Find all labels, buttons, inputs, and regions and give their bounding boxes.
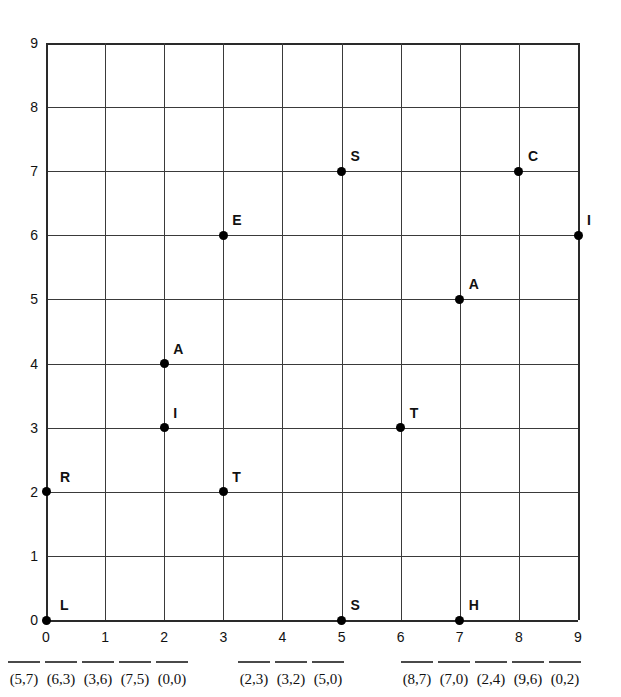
gridline-vertical xyxy=(401,43,402,620)
x-axis-tick-8: 8 xyxy=(506,630,532,644)
gridline-vertical xyxy=(164,43,165,620)
y-axis-tick-8: 8 xyxy=(12,100,38,114)
answer-blank-line[interactable] xyxy=(275,661,307,663)
answer-blank[interactable]: (2,3) xyxy=(238,661,270,687)
point-label-h-7-0: H xyxy=(469,598,479,612)
answer-blank[interactable]: (5,0) xyxy=(312,661,344,687)
y-axis-tick-7: 7 xyxy=(12,164,38,178)
x-axis-tick-4: 4 xyxy=(269,630,295,644)
data-point-a-2-4 xyxy=(160,359,169,368)
answer-coordinate-label: (2,4) xyxy=(477,672,506,687)
answer-blank-line[interactable] xyxy=(119,661,151,663)
answer-blank-line[interactable] xyxy=(475,661,507,663)
gridline-horizontal xyxy=(46,235,578,236)
answer-blank[interactable]: (7,5) xyxy=(119,661,151,687)
answer-coordinate-label: (3,6) xyxy=(84,672,113,687)
point-label-e-3-6: E xyxy=(232,213,241,227)
x-axis-tick-3: 3 xyxy=(210,630,236,644)
x-axis-tick-5: 5 xyxy=(329,630,355,644)
point-label-i-2-3: I xyxy=(173,406,177,420)
coordinate-plot-area xyxy=(46,43,578,620)
gridline-horizontal xyxy=(46,428,578,429)
y-axis-tick-5: 5 xyxy=(12,292,38,306)
point-label-a-2-4: A xyxy=(173,342,183,356)
answer-blank[interactable]: (0,0) xyxy=(156,661,188,687)
y-axis-tick-9: 9 xyxy=(12,36,38,50)
gridline-vertical xyxy=(282,43,283,620)
plot-border-horizontal xyxy=(46,43,578,45)
point-label-t-6-3: T xyxy=(410,406,419,420)
answer-blank[interactable]: (3,6) xyxy=(82,661,114,687)
answer-blank[interactable]: (2,4) xyxy=(475,661,507,687)
answer-group-1: (5,7)(6,3)(3,6)(7,5)(0,0) xyxy=(8,661,193,687)
x-axis-tick-7: 7 xyxy=(447,630,473,644)
answer-coordinate-label: (5,0) xyxy=(314,672,343,687)
plot-border-vertical xyxy=(578,43,580,620)
x-axis-tick-1: 1 xyxy=(92,630,118,644)
answer-blank-line[interactable] xyxy=(45,661,77,663)
data-point-r-0-2 xyxy=(42,487,51,496)
data-point-h-7-0 xyxy=(455,616,464,625)
gridline-vertical xyxy=(223,43,224,620)
plot-border-horizontal xyxy=(46,620,578,622)
answer-blank-line[interactable] xyxy=(156,661,188,663)
data-point-i-9-6 xyxy=(574,231,583,240)
answer-blank[interactable]: (6,3) xyxy=(45,661,77,687)
coordinate-grid-puzzle: 01234567890123456789 LRIATESSTHACI (5,7)… xyxy=(0,0,621,697)
y-axis-tick-4: 4 xyxy=(12,357,38,371)
point-label-s-5-0: S xyxy=(351,598,360,612)
gridline-vertical xyxy=(342,43,343,620)
answer-blank-line[interactable] xyxy=(549,661,581,663)
answer-coordinate-label: (0,0) xyxy=(158,672,187,687)
answer-blank[interactable]: (5,7) xyxy=(8,661,40,687)
answer-blank[interactable]: (0,2) xyxy=(549,661,581,687)
answer-blank[interactable]: (7,0) xyxy=(438,661,470,687)
answer-blank[interactable]: (8,7) xyxy=(401,661,433,687)
y-axis-tick-2: 2 xyxy=(12,485,38,499)
x-axis-tick-2: 2 xyxy=(151,630,177,644)
data-point-l-0-0 xyxy=(42,616,51,625)
plot-border-vertical xyxy=(46,43,48,620)
point-label-r-0-2: R xyxy=(60,470,70,484)
answer-coordinate-label: (8,7) xyxy=(403,672,432,687)
answer-blank-line[interactable] xyxy=(401,661,433,663)
answer-blank-line[interactable] xyxy=(512,661,544,663)
y-axis-tick-3: 3 xyxy=(12,421,38,435)
answer-blank-line[interactable] xyxy=(312,661,344,663)
y-axis-tick-0: 0 xyxy=(12,613,38,627)
answer-blank-line[interactable] xyxy=(438,661,470,663)
answer-coordinate-label: (2,3) xyxy=(240,672,269,687)
gridline-vertical xyxy=(105,43,106,620)
gridline-vertical xyxy=(519,43,520,620)
point-label-a-7-5: A xyxy=(469,277,479,291)
answer-coordinate-label: (0,2) xyxy=(551,672,580,687)
data-point-s-5-0 xyxy=(337,616,346,625)
answer-coordinate-label: (3,2) xyxy=(277,672,306,687)
point-label-i-9-6: I xyxy=(587,213,591,227)
answer-blank-line[interactable] xyxy=(82,661,114,663)
y-axis-tick-1: 1 xyxy=(12,549,38,563)
point-label-c-8-7: C xyxy=(528,149,538,163)
answer-blank[interactable]: (9,6) xyxy=(512,661,544,687)
answer-blank-line[interactable] xyxy=(238,661,270,663)
answer-coordinate-label: (7,5) xyxy=(121,672,150,687)
point-label-l-0-0: L xyxy=(60,598,69,612)
answer-group-2: (2,3)(3,2)(5,0) xyxy=(238,661,349,687)
y-axis-tick-6: 6 xyxy=(12,228,38,242)
gridline-horizontal xyxy=(46,492,578,493)
point-label-s-5-7: S xyxy=(351,149,360,163)
gridline-horizontal xyxy=(46,299,578,300)
x-axis-tick-0: 0 xyxy=(33,630,59,644)
answer-coordinate-label: (6,3) xyxy=(47,672,76,687)
answer-blank[interactable]: (3,2) xyxy=(275,661,307,687)
answer-coordinate-label: (7,0) xyxy=(440,672,469,687)
data-point-s-5-7 xyxy=(337,167,346,176)
x-axis-tick-6: 6 xyxy=(388,630,414,644)
answer-blank-line[interactable] xyxy=(8,661,40,663)
answer-coordinate-label: (9,6) xyxy=(514,672,543,687)
answer-coordinate-label: (5,7) xyxy=(10,672,39,687)
point-label-t-3-2: T xyxy=(232,470,241,484)
data-point-e-3-6 xyxy=(219,231,228,240)
answer-group-3: (8,7)(7,0)(2,4)(9,6)(0,2) xyxy=(401,661,586,687)
gridline-horizontal xyxy=(46,171,578,172)
